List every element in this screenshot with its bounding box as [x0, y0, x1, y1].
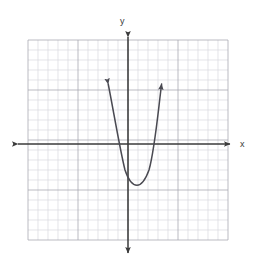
coordinate-plane: [0, 0, 256, 275]
graph-figure: y x: [0, 0, 256, 275]
y-axis-label: y: [120, 17, 125, 26]
x-axis-label: x: [240, 140, 245, 149]
